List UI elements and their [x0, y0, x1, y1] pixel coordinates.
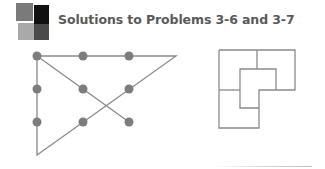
- dot-r2-c0: [33, 118, 42, 127]
- figures-canvas: [0, 0, 325, 169]
- nine-dot-puzzle-solution: [33, 52, 177, 156]
- inner-l-lower: [240, 90, 259, 108]
- solution-path-line: [37, 56, 176, 155]
- inner-l-piece: [240, 69, 276, 90]
- dot-r2-c2: [125, 118, 134, 127]
- l-shape-dissection: [219, 50, 295, 128]
- dot-r2-c1: [79, 118, 88, 127]
- dot-r1-c1: [79, 85, 88, 94]
- dot-r0-c0: [33, 52, 42, 61]
- dot-r0-c1: [79, 52, 88, 61]
- dot-r1-c0: [33, 85, 42, 94]
- dot-r1-c2: [125, 85, 134, 94]
- divider-rule: [214, 166, 312, 167]
- dot-r0-c2: [125, 52, 134, 61]
